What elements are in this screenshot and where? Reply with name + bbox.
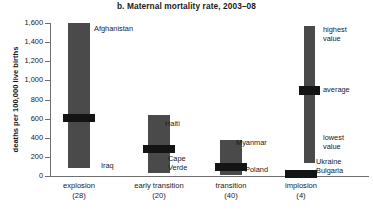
y-tick-label: 1,000 [0, 76, 43, 83]
legend-lowest-label-line2: value [323, 143, 341, 152]
y-tick-mark [45, 176, 50, 177]
category-count: (28) [34, 191, 124, 201]
y-tick-mark [45, 157, 50, 158]
range-bar-explosion [68, 23, 90, 168]
annotation-myanmar: Myanmar [236, 139, 267, 148]
y-axis-line [50, 23, 51, 177]
chart-title: b. Maternal mortality rate, 2003–08 [0, 1, 373, 11]
annotation-haiti: Haiti [165, 120, 180, 129]
y-tick-label: 600 [0, 115, 43, 122]
x-axis-line [50, 176, 369, 177]
annotation-afghanistan: Afghanistan [94, 25, 133, 34]
y-tick-mark [45, 61, 50, 62]
category-name: explosion [34, 181, 124, 191]
category-count: (4) [256, 191, 346, 201]
y-tick-mark [45, 80, 50, 81]
legend-average-label: average [323, 86, 350, 95]
y-tick-label: 400 [0, 134, 43, 141]
maternal-mortality-chart: b. Maternal mortality rate, 2003–08 deat… [0, 0, 373, 219]
y-tick-label: 1,400 [0, 38, 43, 45]
y-tick-label: 200 [0, 153, 43, 160]
y-tick-mark [45, 42, 50, 43]
average-marker-explosion [63, 114, 95, 122]
average-marker-implosion [285, 170, 317, 178]
legend-highest-label-line2: value [323, 35, 341, 44]
average-marker-transition [215, 163, 247, 171]
y-tick-label: 1,600 [0, 19, 43, 26]
annotation-iraq: Iraq [101, 162, 114, 171]
category-label-explosion: explosion(28) [34, 181, 124, 200]
y-tick-mark [45, 138, 50, 139]
category-label-implosion: implosion(4) [256, 181, 346, 200]
annotation-cape-verde-line2: Verde [168, 164, 187, 173]
y-tick-mark [45, 100, 50, 101]
category-name: implosion [256, 181, 346, 191]
y-tick-mark [45, 119, 50, 120]
y-tick-label: 800 [0, 96, 43, 103]
annotation-poland: Poland [245, 166, 268, 175]
y-tick-label: 1,200 [0, 57, 43, 64]
legend-average-marker [299, 86, 320, 95]
average-marker-early-transition [143, 145, 175, 153]
y-tick-mark [45, 23, 50, 24]
y-tick-label: 0 [0, 172, 43, 179]
annotation-bulgaria: Bulgaria [316, 167, 343, 176]
